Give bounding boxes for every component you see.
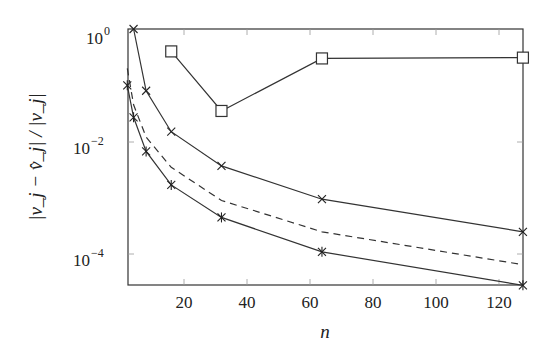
x-marker-icon: [167, 128, 175, 136]
x-marker-icon: [217, 162, 225, 170]
square-marker-icon: [316, 53, 327, 64]
star-marker-icon: [142, 146, 150, 156]
x-tick-label: 100: [423, 293, 449, 312]
series-line: [134, 29, 523, 232]
series-upper-x-markers: [130, 25, 527, 236]
x-tick-label: 40: [239, 293, 256, 312]
series-line: [127, 68, 523, 264]
series-layer: [123, 25, 528, 290]
y-tick-base: 10: [86, 29, 103, 48]
y-axis-label: |v_j − v̂_j| / |v_j|: [25, 93, 46, 221]
x-axis-label: n: [320, 321, 330, 342]
y-tick-exponent: 0: [104, 24, 110, 38]
star-marker-icon: [217, 212, 225, 222]
square-marker-icon: [216, 105, 227, 116]
series-lower-star-markers: [123, 80, 527, 290]
y-tick-exponent: −4: [91, 246, 104, 260]
chart-canvas: 20 40 60 80 100 120 10 0 10 −2 10 −4 n |…: [0, 0, 550, 357]
y-ticks: [128, 142, 523, 254]
plot-frame: [128, 29, 523, 285]
star-marker-icon: [167, 180, 175, 190]
y-tick-label-neg2: 10 −2: [73, 134, 104, 158]
star-marker-icon: [130, 112, 138, 122]
square-marker-icon: [517, 52, 528, 63]
square-marker-icon: [166, 46, 177, 57]
x-tick-label: 120: [486, 293, 512, 312]
x-tick-label: 60: [302, 293, 319, 312]
y-tick-label-neg4: 10 −4: [73, 246, 104, 270]
x-tick-label: 80: [365, 293, 382, 312]
series-dashed-reference: [127, 68, 523, 264]
y-tick-exponent: −2: [91, 134, 104, 148]
y-tick-label-0: 10 0: [86, 24, 110, 48]
x-ticks: [184, 29, 499, 285]
y-tick-base: 10: [73, 139, 90, 158]
y-tick-base: 10: [73, 251, 90, 270]
x-tick-label: 20: [176, 293, 193, 312]
series-square-markers: [166, 46, 529, 117]
series-line: [171, 51, 523, 111]
